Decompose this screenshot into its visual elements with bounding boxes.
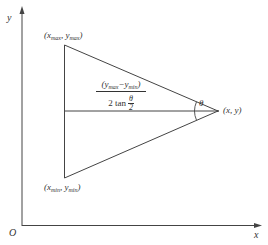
triangle-bottom-edge bbox=[65, 111, 219, 178]
y-axis-arrow-icon bbox=[20, 6, 25, 14]
x-axis-arrow-icon bbox=[254, 223, 262, 228]
x-axis-label: x bbox=[254, 230, 258, 240]
origin-label: O bbox=[9, 228, 16, 238]
half-theta-fraction: θ 2 bbox=[128, 95, 134, 112]
diagram-canvas bbox=[0, 0, 268, 245]
angle-theta-label: θ bbox=[199, 99, 203, 108]
formula-numerator: (ymax−ymin) bbox=[96, 79, 146, 92]
formula-denominator: 2 tan θ 2 bbox=[108, 95, 134, 112]
y-axis-label: y bbox=[7, 13, 11, 23]
vertex-label-min: (xmin, ymin) bbox=[44, 183, 81, 193]
distance-formula: (ymax−ymin) 2 tan θ 2 bbox=[96, 79, 146, 112]
vertex-label-max: (xmax, ymax) bbox=[44, 31, 83, 41]
apex-label: (x, y) bbox=[223, 106, 241, 115]
apex-point bbox=[217, 110, 219, 112]
